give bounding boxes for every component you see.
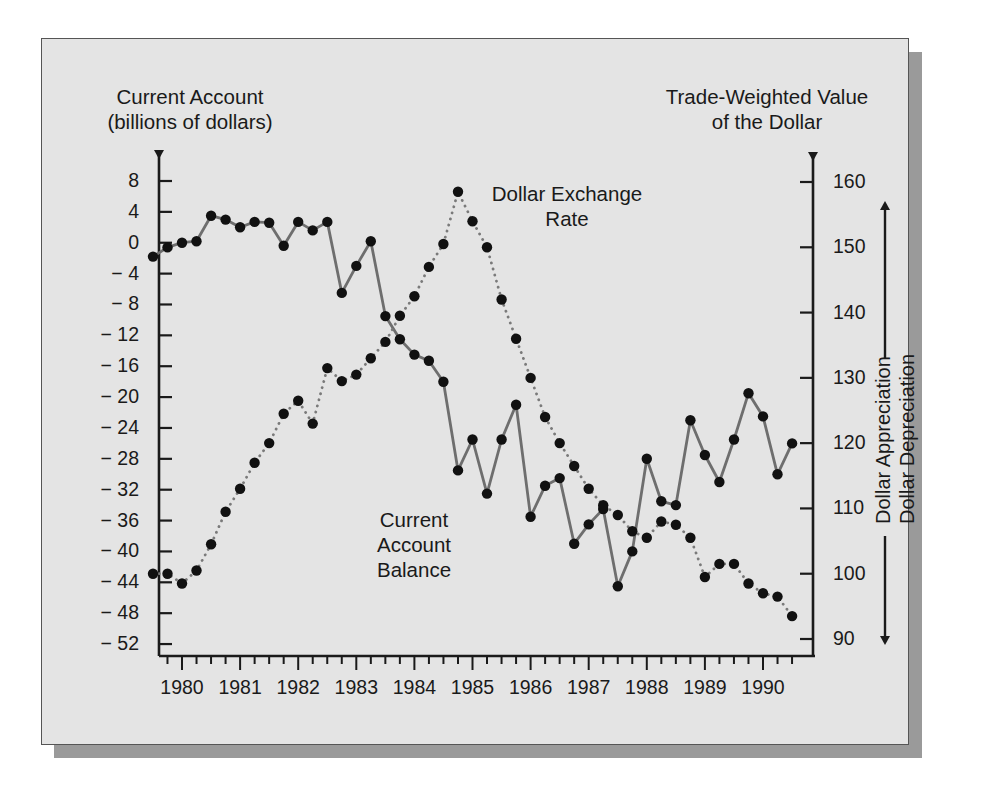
data-point (787, 611, 797, 621)
data-point (148, 569, 158, 579)
data-point (743, 578, 753, 588)
data-point (787, 438, 797, 448)
data-point (177, 238, 187, 248)
data-point (714, 477, 724, 487)
data-point (337, 288, 347, 298)
data-point (656, 496, 666, 506)
data-point (729, 434, 739, 444)
left-tick-label: − 48 (42, 601, 139, 624)
data-point (613, 510, 623, 520)
data-point (555, 473, 565, 483)
left-tick-label: − 28 (42, 447, 139, 470)
data-point (453, 187, 463, 197)
data-point (409, 291, 419, 301)
series-dollar-rate (148, 187, 798, 622)
data-point (496, 434, 506, 444)
data-point (279, 409, 289, 419)
data-point (148, 251, 158, 261)
data-point (366, 236, 376, 246)
data-point (685, 533, 695, 543)
data-point (525, 512, 535, 522)
dollar-appreciation-label: Dollar Appreciation (872, 356, 895, 524)
data-point (191, 565, 201, 575)
data-point (453, 465, 463, 475)
data-point (772, 591, 782, 601)
data-point (279, 241, 289, 251)
data-point (162, 569, 172, 579)
left-tick-label: − 12 (42, 323, 139, 346)
right-tick-label: 120 (833, 431, 866, 454)
data-point (380, 311, 390, 321)
data-point (220, 507, 230, 517)
data-point (569, 461, 579, 471)
left-tick-label: 8 (42, 169, 139, 192)
data-point (308, 225, 318, 235)
data-point (671, 500, 681, 510)
right-tick-label: 100 (833, 562, 866, 585)
left-tick-label: − 24 (42, 416, 139, 439)
left-tick-label: 4 (42, 200, 139, 223)
data-point (758, 411, 768, 421)
left-tick-label: − 20 (42, 385, 139, 408)
left-tick-label: − 40 (42, 539, 139, 562)
data-point (438, 239, 448, 249)
left-tick-label: 0 (42, 231, 139, 254)
data-point (264, 438, 274, 448)
series-line (153, 216, 792, 587)
right-tick-label: 90 (833, 627, 855, 650)
data-point (613, 581, 623, 591)
right-tick-label: 110 (833, 496, 864, 519)
series-line (153, 192, 792, 616)
data-point (598, 500, 608, 510)
data-point (409, 349, 419, 359)
right-tick-label: 160 (833, 170, 866, 193)
x-tick-label: 1990 (727, 676, 799, 699)
data-point (249, 217, 259, 227)
data-point (482, 488, 492, 498)
data-point (525, 373, 535, 383)
data-point (584, 519, 594, 529)
data-point (482, 242, 492, 252)
data-point (540, 412, 550, 422)
left-tick-label: − 4 (42, 262, 139, 285)
left-tick-label: − 8 (42, 292, 139, 315)
data-point (569, 539, 579, 549)
left-tick-label: − 32 (42, 478, 139, 501)
data-point (467, 216, 477, 226)
data-point (235, 222, 245, 232)
right-tick-label: 150 (833, 235, 866, 258)
data-point (671, 520, 681, 530)
data-point (235, 484, 245, 494)
data-point (496, 294, 506, 304)
data-point (627, 546, 637, 556)
data-point (758, 588, 768, 598)
data-point (220, 214, 230, 224)
data-point (249, 458, 259, 468)
data-point (162, 242, 172, 252)
data-point (206, 211, 216, 221)
data-point (584, 484, 594, 494)
data-point (424, 356, 434, 366)
data-point (642, 454, 652, 464)
left-tick-label: − 44 (42, 570, 139, 593)
data-point (322, 363, 332, 373)
data-point (395, 334, 405, 344)
data-point (540, 481, 550, 491)
right-tick-label: 130 (833, 366, 866, 389)
series-current-account (148, 211, 798, 592)
dollar-depreciation-label: Dollar Depreciation (896, 354, 919, 524)
data-point (293, 396, 303, 406)
data-point (351, 261, 361, 271)
data-point (191, 236, 201, 246)
data-point (177, 578, 187, 588)
data-point (729, 559, 739, 569)
data-point (395, 311, 405, 321)
data-point (438, 377, 448, 387)
data-point (206, 539, 216, 549)
data-point (772, 469, 782, 479)
data-point (627, 526, 637, 536)
data-point (380, 337, 390, 347)
data-point (424, 262, 434, 272)
data-point (264, 218, 274, 228)
data-point (714, 559, 724, 569)
